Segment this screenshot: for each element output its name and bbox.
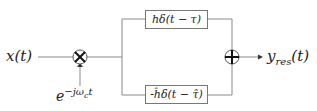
- multiplier-node: [73, 50, 87, 64]
- output-arg: (t): [291, 47, 309, 65]
- lower-delay-block: -ĥδ(t − τ̂): [145, 85, 208, 104]
- carrier-exponent: −jω: [64, 86, 84, 97]
- adder-node: [225, 50, 239, 64]
- input-label: x(t): [6, 47, 32, 65]
- carrier-t: t: [88, 86, 92, 97]
- output-subscript: res: [275, 56, 291, 67]
- output-label: yres(t): [267, 47, 309, 67]
- upper-delay-block: hδ(t − τ): [145, 10, 208, 29]
- carrier-label: e−jωct: [56, 86, 92, 104]
